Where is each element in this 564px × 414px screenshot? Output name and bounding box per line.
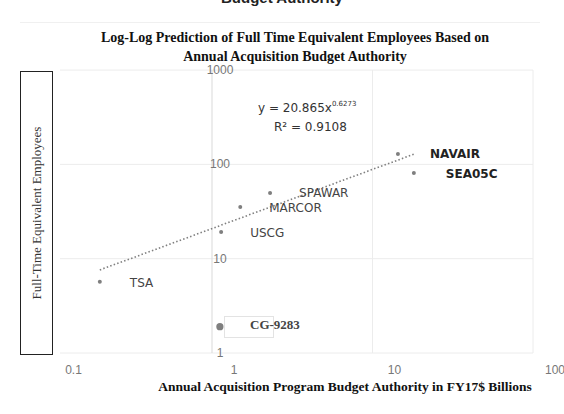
data-points: TSAUSCGMARCORSPAWARNAVAIRSEA05C	[98, 147, 498, 330]
data-label-uscg: USCG	[250, 226, 284, 240]
data-label-navair: NAVAIR	[430, 147, 480, 161]
x-tick-label: 0.1	[65, 363, 82, 377]
data-label-tsa: TSA	[129, 276, 154, 290]
data-point-sea05c	[412, 171, 416, 175]
data-point-marcor	[238, 205, 242, 209]
data-point-spawar	[268, 191, 272, 195]
data-point-uscg	[219, 230, 223, 234]
r-squared-value: R² = 0.9108	[274, 120, 347, 134]
plot-area: 11010010000.1110100 TSAUSCGMARCORSPAWARN…	[0, 0, 564, 414]
x-tick-label: 10	[388, 363, 402, 377]
trendline-equation: y = 20.865x0.6273	[258, 100, 356, 115]
data-point-tsa	[98, 280, 102, 284]
data-label-sea05c: SEA05C	[446, 167, 498, 181]
x-tick-label: 100	[545, 363, 564, 377]
y-tick-label: 10	[213, 252, 227, 266]
data-label-marcor: MARCOR	[269, 201, 321, 215]
data-point-navair	[396, 152, 400, 156]
data-label-cg-9283: CG-9283	[250, 317, 300, 333]
x-tick-label: 1	[231, 363, 238, 377]
y-tick-label: 1	[217, 346, 224, 360]
data-label-spawar: SPAWAR	[299, 186, 348, 200]
y-tick-label: 100	[210, 157, 230, 171]
y-tick-label: 1000	[207, 63, 234, 77]
trendline	[100, 154, 414, 270]
data-point-cg-9283	[216, 323, 223, 330]
x-axis-label: Annual Acquisition Program Budget Author…	[150, 379, 540, 395]
